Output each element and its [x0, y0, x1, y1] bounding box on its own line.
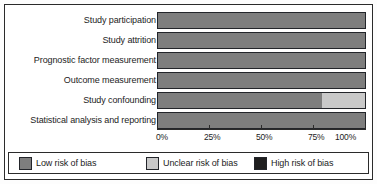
axis-tick-label: 0%	[156, 132, 168, 142]
table-row: Statistical analysis and reporting	[4, 112, 369, 129]
stacked-bar[interactable]	[157, 72, 366, 89]
legend-label: Low risk of bias	[36, 158, 96, 168]
legend-swatch-icon	[146, 157, 159, 170]
category-label: Outcome measurement	[10, 72, 156, 89]
chart-legend: Low risk of bias Unclear risk of bias Hi…	[8, 152, 369, 174]
bar-segment-unclear	[322, 93, 365, 108]
table-row: Outcome measurement	[4, 72, 369, 89]
category-label: Prognostic factor measurement	[10, 52, 156, 69]
table-row: Study participation	[4, 12, 369, 29]
legend-item-low[interactable]: Low risk of bias	[19, 156, 96, 170]
category-label: Study attrition	[10, 32, 156, 49]
stacked-bar[interactable]	[157, 92, 366, 109]
category-label: Study participation	[10, 12, 156, 29]
bar-segment-low	[158, 13, 365, 28]
risk-of-bias-chart: Study participation Study attrition Prog…	[0, 0, 377, 184]
axis-tick	[313, 125, 314, 130]
stacked-bar[interactable]	[157, 12, 366, 29]
stacked-bar[interactable]	[157, 32, 366, 49]
bar-segment-low	[158, 93, 322, 108]
axis-tick-label: 100%	[335, 132, 356, 142]
plot-area: Study participation Study attrition Prog…	[4, 8, 369, 138]
stacked-bar[interactable]	[157, 52, 366, 69]
bar-segment-low	[158, 33, 365, 48]
legend-swatch-icon	[254, 157, 267, 170]
x-axis	[157, 129, 366, 130]
table-row: Prognostic factor measurement	[4, 52, 369, 69]
axis-tick-label: 75%	[308, 132, 324, 142]
bar-segment-low	[158, 73, 365, 88]
bar-segment-low	[158, 53, 365, 68]
axis-tick	[365, 124, 366, 130]
legend-item-unclear[interactable]: Unclear risk of bias	[146, 156, 238, 170]
axis-tick	[209, 125, 210, 130]
axis-tick	[261, 125, 262, 130]
axis-tick	[157, 124, 158, 130]
axis-tick-label: 25%	[204, 132, 220, 142]
legend-label: Unclear risk of bias	[163, 158, 238, 168]
legend-label: High risk of bias	[271, 158, 333, 168]
axis-tick-label: 50%	[256, 132, 272, 142]
legend-swatch-icon	[19, 157, 32, 170]
table-row: Study confounding	[4, 92, 369, 109]
legend-item-high[interactable]: High risk of bias	[254, 156, 333, 170]
table-row: Study attrition	[4, 32, 369, 49]
category-label: Study confounding	[10, 92, 156, 109]
category-label: Statistical analysis and reporting	[10, 112, 156, 129]
